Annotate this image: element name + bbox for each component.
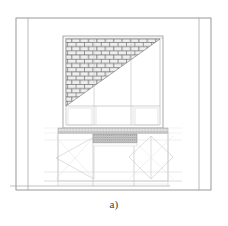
sill-band [58,128,168,133]
figure-container: a) [0,0,228,226]
technical-drawing [0,0,228,226]
figure-caption: a) [0,198,228,210]
left-diagonal-bracing [56,137,94,179]
brick-masonry-infill [60,35,170,115]
central-hatch-band [93,134,137,146]
ground-reference-line [10,184,170,186]
